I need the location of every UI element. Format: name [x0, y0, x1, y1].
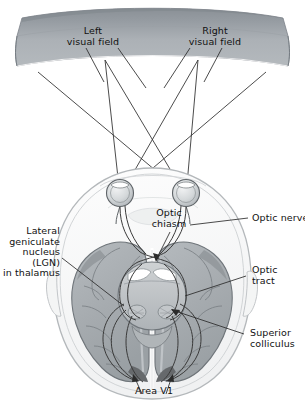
label-lgn: Lateral geniculate nucleus (LGN) in thal… [2, 226, 60, 279]
label-optic-chiasm: Optic chiasm [140, 208, 198, 229]
label-optic-tract: Optic tract [252, 265, 300, 286]
lens-left [111, 182, 129, 188]
label-area-v1: Area V1 [124, 386, 184, 397]
label-superior-colliculus: Superior colliculus [250, 328, 304, 349]
label-left-visual-field: Left visual field [62, 26, 124, 47]
lens-right [177, 182, 195, 188]
visual-pathway-figure: Left visual field Right visual field Opt… [0, 0, 305, 401]
visual-field-band [16, 8, 290, 66]
label-optic-nerve: Optic nerve [252, 213, 304, 224]
label-right-visual-field: Right visual field [184, 26, 246, 47]
